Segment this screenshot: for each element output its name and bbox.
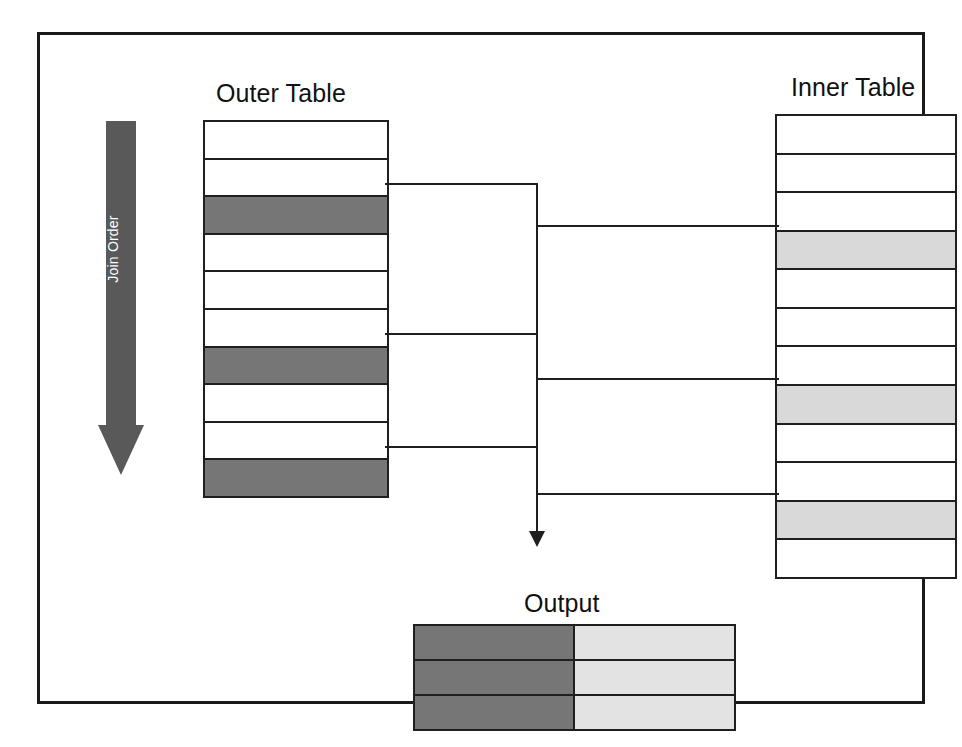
- outer-table-row: [205, 460, 387, 496]
- outer-table-row: [205, 272, 387, 310]
- inner-table-title: Inner Table: [791, 75, 915, 100]
- inner-table-row: [777, 270, 955, 309]
- diagram-frame: Join Order Outer Table Inner Table Outpu…: [37, 32, 925, 704]
- output-table-row: [415, 626, 734, 661]
- output-table-title: Output: [524, 591, 600, 616]
- output-cell-inner: [575, 696, 734, 729]
- connector-inner-row4: [536, 225, 779, 227]
- output-cell-inner: [575, 661, 734, 694]
- inner-table-row: [777, 116, 955, 155]
- connector-outer-row3: [385, 183, 536, 185]
- join-order-arrow: Join Order: [98, 121, 144, 475]
- connector-outer-row10: [385, 446, 536, 448]
- inner-table: [775, 114, 957, 579]
- output-table-row: [415, 696, 734, 729]
- inner-table-row: [777, 309, 955, 348]
- outer-table-row: [205, 385, 387, 423]
- inner-table-row: [777, 232, 955, 271]
- connector-inner-row8: [536, 378, 779, 380]
- outer-table-row: [205, 197, 387, 235]
- diagram-canvas: Join Order Outer Table Inner Table Outpu…: [0, 0, 962, 747]
- outer-table: [203, 120, 389, 498]
- output-cell-inner: [575, 626, 734, 659]
- outer-table-row: [205, 122, 387, 160]
- join-order-label: Join Order: [105, 176, 121, 322]
- inner-table-row: [777, 386, 955, 425]
- connector-inner-row11: [536, 493, 779, 495]
- outer-table-row: [205, 235, 387, 273]
- output-table: [413, 624, 736, 731]
- outer-table-row: [205, 310, 387, 348]
- inner-table-row: [777, 502, 955, 541]
- output-cell-outer: [415, 661, 575, 694]
- inner-table-row: [777, 155, 955, 194]
- outer-table-row: [205, 160, 387, 198]
- outer-table-row: [205, 348, 387, 386]
- output-arrow-head: [529, 531, 545, 547]
- outer-table-title: Outer Table: [216, 81, 346, 106]
- output-table-row: [415, 661, 734, 696]
- inner-table-row: [777, 193, 955, 232]
- join-spine-line: [536, 183, 538, 533]
- inner-table-row: [777, 463, 955, 502]
- join-order-arrow-head: [98, 425, 144, 475]
- outer-table-row: [205, 423, 387, 461]
- inner-table-row: [777, 347, 955, 386]
- inner-table-row: [777, 540, 955, 577]
- output-cell-outer: [415, 696, 575, 729]
- inner-table-row: [777, 425, 955, 464]
- connector-outer-row7: [385, 333, 536, 335]
- output-cell-outer: [415, 626, 575, 659]
